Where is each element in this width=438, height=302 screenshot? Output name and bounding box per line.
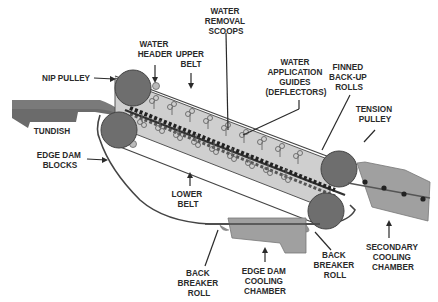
nip-pulley-upper <box>115 70 151 106</box>
finned-back-up-rolls-arrow <box>322 95 350 150</box>
water-removal-scoops-arrow <box>226 33 228 130</box>
label-water-removal-scoops: WATER REMOVAL SCOOPS <box>205 7 247 36</box>
label-tension-pulley: TENSION PULLEY <box>356 105 395 124</box>
label-edge-dam-cooling-chamber: EDGE DAM COOLING CHAMBER <box>242 267 288 296</box>
twin-belt-caster-diagram: WATER REMOVAL SCOOPS WATER HEADER UPPER … <box>0 0 438 302</box>
label-back-breaker-roll-right: BACK BREAKER ROLL <box>314 251 357 280</box>
label-secondary-cooling-chamber: SECONDARY COOLING CHAMBER <box>366 243 420 272</box>
tension-pulley-arrow <box>364 130 375 142</box>
label-tundish: TUNDISH <box>34 127 70 136</box>
back-breaker-roll-left-arrow <box>205 230 218 266</box>
water-header-roll <box>153 83 160 90</box>
secondary-cooling-chamber <box>348 162 430 221</box>
label-finned-back-up-rolls: FINNED BACK-UP ROLLS <box>329 63 369 92</box>
label-water-header: WATER HEADER <box>138 40 173 59</box>
label-nip-pulley: NIP PULLEY <box>42 74 91 83</box>
label-upper-belt: UPPER BELT <box>176 50 207 69</box>
label-water-application-guides: WATER APPLICATION GUIDES (DEFLECTORS) <box>266 58 327 97</box>
label-edge-dam-blocks: EDGE DAM BLOCKS <box>37 151 83 170</box>
tension-pulley-upper <box>321 151 357 187</box>
nip-pulley-lower <box>101 112 137 148</box>
label-back-breaker-roll-left: BACK BREAKER ROLL <box>178 269 221 298</box>
back-breaker-roll-right-arrow <box>315 232 331 250</box>
label-lower-belt: LOWER BELT <box>172 190 205 209</box>
